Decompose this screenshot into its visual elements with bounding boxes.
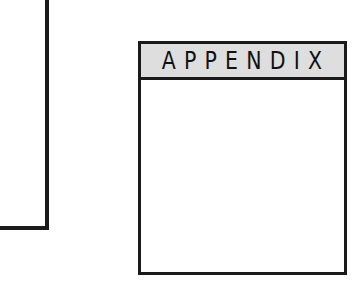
appendix-body (141, 80, 344, 272)
appendix-box: APPENDIX (138, 41, 347, 275)
left-frame-border (0, 0, 49, 230)
appendix-header: APPENDIX (141, 44, 344, 80)
appendix-title: APPENDIX (155, 48, 330, 73)
